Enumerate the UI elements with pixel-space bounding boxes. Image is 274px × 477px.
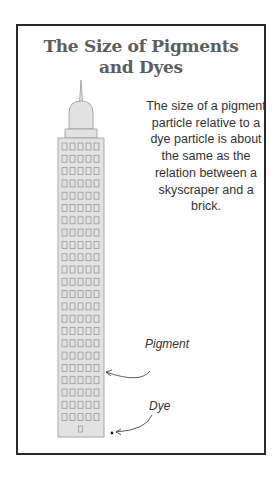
- skyscraper-icon: [0, 0, 274, 477]
- pigment-label: Pigment: [145, 337, 189, 351]
- dot-icon: [111, 432, 114, 435]
- dye-label: Dye: [149, 399, 170, 413]
